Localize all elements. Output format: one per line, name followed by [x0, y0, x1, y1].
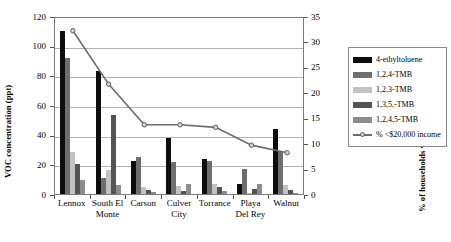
y-axis-left-title: VOC concentration (ppt) — [3, 85, 13, 178]
x-tick-mark — [233, 195, 234, 199]
y-tick-mark-right — [304, 170, 308, 171]
y-tick-label-right: 25 — [311, 63, 335, 72]
y-tick-label-right: 5 — [311, 165, 335, 174]
legend-color-swatch — [353, 117, 372, 123]
bar-group — [268, 18, 303, 194]
bar — [222, 191, 227, 194]
bar-group — [161, 18, 196, 194]
legend-item-label: 1,2,4,5-TMB — [376, 115, 418, 124]
x-axis-label-line1: Walnut — [269, 198, 303, 209]
x-tick-mark — [161, 195, 162, 199]
legend-color-swatch — [353, 87, 372, 93]
x-axis-label-line2: Monte — [91, 209, 125, 220]
legend-color-swatch — [353, 102, 372, 108]
bar — [186, 184, 191, 194]
legend-item[interactable]: 1,2,4-TMB — [353, 67, 443, 82]
x-axis-label-line1: Lennox — [55, 198, 89, 209]
y-tick-label-right: 10 — [311, 140, 335, 149]
legend-item-label: 4-ethyltoluene — [376, 55, 422, 64]
legend-item-label: % <$20,000 income — [376, 130, 441, 139]
y-tick-label-left: 100 — [22, 42, 46, 51]
y-tick-mark-right — [304, 42, 308, 43]
y-tick-mark-right — [304, 119, 308, 120]
x-axis-label: Lennox — [54, 198, 90, 238]
x-tick-mark — [197, 195, 198, 199]
x-axis-label-line2: City — [162, 209, 196, 220]
legend-item[interactable]: 1,2,4,5-TMB — [353, 112, 443, 127]
x-tick-mark — [304, 195, 305, 199]
x-tick-mark — [90, 195, 91, 199]
bar — [111, 115, 116, 194]
bar-group — [126, 18, 161, 194]
bar — [257, 184, 262, 194]
y-tick-label-left: 40 — [22, 131, 46, 140]
legend-item[interactable]: 1,2,3-TMB — [353, 82, 443, 97]
x-axis-label: CulverCity — [161, 198, 197, 238]
chart-legend: 4-ethyltoluene1,2,4-TMB1,2,3-TMB1,3,5,-T… — [348, 47, 447, 147]
x-axis-label: South ElMonte — [90, 198, 126, 238]
x-axis-label-line1: Torrance — [198, 198, 232, 209]
legend-color-swatch — [353, 57, 372, 63]
y-tick-mark-right — [304, 93, 308, 94]
x-axis-category-labels: LennoxSouth ElMonteCarsonCulverCityTorra… — [54, 198, 304, 238]
x-tick-mark — [268, 195, 269, 199]
legend-item-label: 1,2,4-TMB — [376, 70, 412, 79]
y-tick-label-right: 15 — [311, 114, 335, 123]
y-tick-label-left: 60 — [22, 102, 46, 111]
y-tick-label-right: 30 — [311, 38, 335, 47]
x-axis-label: Walnut — [268, 198, 304, 238]
bar-group — [90, 18, 125, 194]
y-tick-label-left: 120 — [22, 13, 46, 22]
chart-container: VOC concentration (ppt) % of households … — [0, 0, 451, 242]
x-tick-mark — [54, 195, 55, 199]
x-axis-label: Torrance — [197, 198, 233, 238]
legend-item-label: 1,3,5,-TMB — [376, 100, 414, 109]
x-axis-label-line1: Culver — [162, 198, 196, 209]
y-tick-mark-right — [304, 17, 308, 18]
bar — [116, 185, 121, 194]
y-tick-mark-right — [304, 68, 308, 69]
x-axis-label-line1: Carson — [126, 198, 160, 209]
bar-group — [232, 18, 267, 194]
bar-group — [197, 18, 232, 194]
x-tick-mark — [125, 195, 126, 199]
y-tick-mark-right — [304, 144, 308, 145]
bar — [151, 192, 156, 194]
y-tick-label-left: 0 — [22, 191, 46, 200]
y-tick-label-right: 20 — [311, 89, 335, 98]
legend-item[interactable]: % <$20,000 income — [353, 127, 443, 142]
bar — [242, 169, 247, 194]
legend-item[interactable]: 1,3,5,-TMB — [353, 97, 443, 112]
y-tick-label-right: 35 — [311, 13, 335, 22]
y-tick-label-left: 80 — [22, 72, 46, 81]
legend-item-label: 1,2,3-TMB — [376, 85, 412, 94]
x-axis-label-line1: Playa — [234, 198, 268, 209]
plot-area — [54, 17, 304, 195]
legend-color-swatch — [353, 72, 372, 78]
legend-item[interactable]: 4-ethyltoluene — [353, 52, 443, 67]
x-axis-label: Carson — [125, 198, 161, 238]
legend-line-marker-icon — [353, 132, 372, 138]
bar — [96, 71, 101, 194]
bar — [80, 180, 85, 194]
bar-groups — [55, 18, 303, 194]
y-tick-label-right: 0 — [311, 191, 335, 200]
y-tick-label-left: 20 — [22, 161, 46, 170]
bar-group — [55, 18, 90, 194]
x-axis-label: PlayaDel Rey — [233, 198, 269, 238]
bar — [293, 193, 298, 194]
x-axis-label-line1: South El — [91, 198, 125, 209]
x-axis-label-line2: Del Rey — [234, 209, 268, 220]
